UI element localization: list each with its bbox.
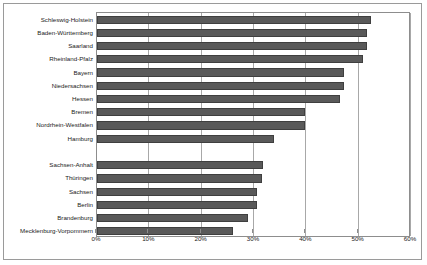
bar[interactable] bbox=[97, 29, 367, 37]
tick-label-60%: 60% bbox=[404, 235, 416, 242]
tick-50% bbox=[357, 229, 358, 233]
category-label: Bayern bbox=[73, 69, 93, 75]
tick-60% bbox=[409, 229, 410, 233]
bar-row: Nordrhein-Westfalen bbox=[97, 121, 411, 129]
category-label: Berlin bbox=[77, 202, 93, 208]
category-label: Niedersachsen bbox=[52, 83, 93, 89]
bar[interactable] bbox=[97, 68, 344, 76]
bar-row: Saarland bbox=[97, 42, 411, 50]
chart-canvas: Schleswig-HolsteinBaden-WürttembergSaarl… bbox=[4, 4, 423, 261]
category-label: Hamburg bbox=[68, 136, 93, 142]
tick-0% bbox=[95, 229, 96, 233]
tick-label-50%: 50% bbox=[351, 235, 363, 242]
tick-label-20%: 20% bbox=[194, 235, 206, 242]
bar[interactable] bbox=[97, 214, 248, 222]
category-label: Thüringen bbox=[65, 175, 93, 181]
bar[interactable] bbox=[97, 227, 233, 235]
bar[interactable] bbox=[97, 121, 305, 129]
category-label: Schleswig-Holstein bbox=[41, 17, 93, 23]
tick-label-0%: 0% bbox=[92, 235, 101, 242]
tick-label-40%: 40% bbox=[299, 235, 311, 242]
chart-frame: Schleswig-HolsteinBaden-WürttembergSaarl… bbox=[3, 3, 422, 260]
bar-row: Thüringen bbox=[97, 174, 411, 182]
tick-20% bbox=[200, 229, 201, 233]
bar[interactable] bbox=[97, 174, 262, 182]
bar-row: Bayern bbox=[97, 68, 411, 76]
category-label: Sachsen bbox=[69, 189, 93, 195]
bar-row: Baden-Württemberg bbox=[97, 29, 411, 37]
category-label: Baden-Württemberg bbox=[37, 30, 93, 36]
category-label: Bremen bbox=[71, 109, 93, 115]
bar-row: Hessen bbox=[97, 95, 411, 103]
tick-label-10%: 10% bbox=[142, 235, 154, 242]
plot-area: Schleswig-HolsteinBaden-WürttembergSaarl… bbox=[96, 12, 410, 237]
bar[interactable] bbox=[97, 188, 257, 196]
bar[interactable] bbox=[97, 108, 305, 116]
bar[interactable] bbox=[97, 95, 340, 103]
category-label: Sachsen-Anhalt bbox=[49, 162, 93, 168]
bar-row: Hamburg bbox=[97, 135, 411, 143]
tick-10% bbox=[147, 229, 148, 233]
bar-row: Bremen bbox=[97, 108, 411, 116]
bar-row: Sachsen-Anhalt bbox=[97, 161, 411, 169]
bar-row-spacer bbox=[97, 148, 411, 156]
category-label: Nordrhein-Westfalen bbox=[36, 122, 93, 128]
bar-row: Berlin bbox=[97, 201, 411, 209]
bar-row: Brandenburg bbox=[97, 214, 411, 222]
tick-30% bbox=[252, 229, 253, 233]
bar-row: Niedersachsen bbox=[97, 82, 411, 90]
bar[interactable] bbox=[97, 55, 363, 63]
category-label: Mecklenburg-Vorpommern bbox=[20, 228, 93, 234]
bar[interactable] bbox=[97, 42, 367, 50]
bar-row: Rheinland-Pfalz bbox=[97, 55, 411, 63]
category-label: Rheinland-Pfalz bbox=[49, 56, 93, 62]
bar-row: Sachsen bbox=[97, 188, 411, 196]
category-label: Brandenburg bbox=[57, 215, 93, 221]
bar[interactable] bbox=[97, 82, 344, 90]
category-label: Saarland bbox=[68, 43, 93, 49]
bar[interactable] bbox=[97, 135, 274, 143]
bar[interactable] bbox=[97, 161, 263, 169]
bar[interactable] bbox=[97, 16, 371, 24]
bar-row: Schleswig-Holstein bbox=[97, 16, 411, 24]
category-label: Hessen bbox=[72, 96, 93, 102]
tick-label-30%: 30% bbox=[247, 235, 259, 242]
bar-rows: Schleswig-HolsteinBaden-WürttembergSaarl… bbox=[97, 13, 409, 236]
bar[interactable] bbox=[97, 201, 257, 209]
tick-40% bbox=[304, 229, 305, 233]
